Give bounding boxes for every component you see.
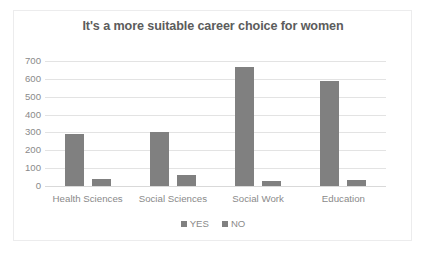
y-tick-label-300: 300: [7, 127, 41, 137]
y-tick-label-400: 400: [7, 110, 41, 120]
x-tick-label-social-sciences: Social Sciences: [130, 191, 215, 207]
bar-no-health-sciences: [92, 179, 111, 186]
y-tick-label-0: 0: [7, 181, 41, 191]
legend-swatch-no-icon: [222, 221, 228, 227]
y-tick-label-700: 700: [7, 56, 41, 66]
y-tick-label-600: 600: [7, 74, 41, 84]
x-axis-line: [45, 186, 386, 187]
bar-yes-social-sciences: [150, 132, 169, 186]
bar-yes-health-sciences: [65, 134, 84, 186]
y-tick-label-500: 500: [7, 92, 41, 102]
x-axis-category-labels: Health SciencesSocial SciencesSocial Wor…: [45, 191, 386, 207]
x-tick-label-health-sciences: Health Sciences: [45, 191, 130, 207]
legend-entry-yes[interactable]: YES: [181, 219, 209, 229]
chart-title: It's a more suitable career choice for w…: [0, 19, 426, 33]
y-tick-label-200: 200: [7, 145, 41, 155]
x-tick-label-social-work: Social Work: [216, 191, 301, 207]
bar-no-social-sciences: [177, 175, 196, 186]
legend-entry-no[interactable]: NO: [222, 219, 245, 229]
legend-swatch-yes-icon: [181, 221, 187, 227]
chart-legend: YESNO: [0, 219, 426, 229]
x-tick-label-education: Education: [301, 191, 386, 207]
bar-yes-education: [320, 81, 339, 186]
legend-label-yes: YES: [190, 219, 209, 229]
bar-yes-social-work: [235, 67, 254, 186]
gridline-700: [45, 61, 386, 62]
y-tick-label-100: 100: [7, 163, 41, 173]
legend-label-no: NO: [231, 219, 245, 229]
y-axis-tick-labels: 7006005004003002001000: [5, 61, 41, 186]
plot-area: [45, 61, 386, 186]
chart-figure: It's a more suitable career choice for w…: [0, 0, 426, 256]
